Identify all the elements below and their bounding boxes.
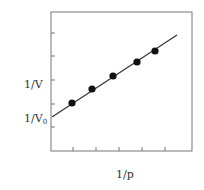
x-axis-ticks — [73, 147, 165, 151]
data-point — [88, 85, 95, 92]
data-point — [68, 99, 75, 106]
y-axis-ticks — [51, 33, 55, 127]
y-axis-label: 1/V — [24, 78, 44, 91]
data-point — [151, 47, 158, 54]
data-point — [133, 58, 140, 65]
data-point — [109, 72, 116, 79]
plot-frame — [51, 12, 192, 151]
x-axis-label: 1/p — [116, 168, 134, 181]
y-intercept-label: 1/V0 — [24, 112, 47, 126]
chart: 1/V 1/V0 1/p — [0, 0, 204, 190]
